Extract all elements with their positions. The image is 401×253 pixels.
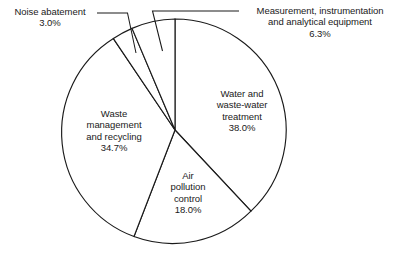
pie-chart: Water and waste-water treatment 38.0% Ai… [0,0,401,253]
pie-label-noise: Noise abatement 3.0% [2,6,98,29]
pie-label-air: Air pollution control 18.0% [152,170,224,216]
pie-label-water: Water and waste-water treatment 38.0% [196,88,288,134]
pie-label-waste: Waste management and recycling 34.7% [62,108,166,154]
pie-label-measurement: Measurement, instrumentation and analyti… [240,5,400,39]
